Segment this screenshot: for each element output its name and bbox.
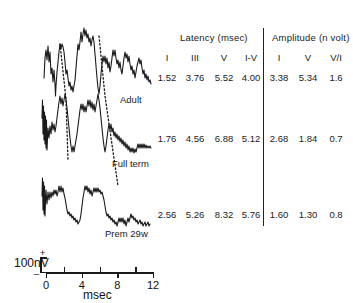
table-column-header-amplitude-V: V xyxy=(299,52,317,63)
cell-prem-29w-latency-I-V: 5.76 xyxy=(239,209,263,220)
x-axis-tick-0 xyxy=(46,272,47,278)
x-axis-minor-tick-6 xyxy=(100,267,101,272)
table-column-header-latency-III: III xyxy=(186,52,204,63)
cell-adult-latency-V: 5.52 xyxy=(212,72,236,83)
trace-label-full-term: Full term xyxy=(112,158,149,169)
cell-full-term-amplitude-V: 1.84 xyxy=(296,133,320,144)
cell-full-term-amplitude-V-over-I: 0.7 xyxy=(325,133,347,144)
cell-adult-latency-I: 1.52 xyxy=(155,72,179,83)
x-axis-tick-4 xyxy=(82,272,83,278)
x-axis-tick-12 xyxy=(153,272,154,278)
cell-prem-29w-amplitude-V-over-I: 0.8 xyxy=(325,209,347,220)
cell-full-term-latency-I: 1.76 xyxy=(155,133,179,144)
scale-bar-negative-sign: _ xyxy=(34,266,39,275)
cell-prem-29w-latency-V: 8.32 xyxy=(212,209,236,220)
cell-adult-amplitude-I: 3.38 xyxy=(267,72,291,83)
cell-full-term-latency-III: 4.56 xyxy=(183,133,207,144)
waveform-plot-area xyxy=(0,0,180,260)
cell-adult-amplitude-V-over-I: 1.6 xyxy=(325,72,347,83)
cell-full-term-latency-I-V: 5.12 xyxy=(239,133,263,144)
table-column-header-latency-V: V xyxy=(215,52,233,63)
cell-prem-29w-amplitude-V: 1.30 xyxy=(296,209,320,220)
cell-prem-29w-latency-III: 5.26 xyxy=(183,209,207,220)
x-axis-minor-tick-10 xyxy=(135,267,136,272)
cell-full-term-amplitude-I: 2.68 xyxy=(267,133,291,144)
cell-adult-latency-III: 3.76 xyxy=(183,72,207,83)
table-column-header-latency-I: I xyxy=(158,52,176,63)
table-column-header-amplitude-V-over-I: V/I xyxy=(325,52,347,63)
trace-label-prem-29w: Prem 29w xyxy=(105,228,148,239)
cell-prem-29w-amplitude-I: 1.60 xyxy=(267,209,291,220)
table-vertical-divider xyxy=(263,28,264,226)
x-axis-title: msec xyxy=(83,288,112,302)
cell-full-term-latency-V: 6.88 xyxy=(212,133,236,144)
cell-adult-latency-I-V: 4.00 xyxy=(239,72,263,83)
cell-adult-amplitude-V: 5.34 xyxy=(296,72,320,83)
waveform-trace-adult xyxy=(44,28,151,96)
waveform-trace-prem-29w xyxy=(42,178,150,226)
x-axis-line xyxy=(46,272,153,274)
trace-label-adult: Adult xyxy=(120,94,142,105)
cell-prem-29w-latency-I: 2.56 xyxy=(155,209,179,220)
x-axis-tick-8 xyxy=(117,272,118,278)
table-group-header-amplitude: Amplitude (n volt) xyxy=(272,32,350,43)
table-column-header-amplitude-I: I xyxy=(270,52,288,63)
table-group-header-latency: Latency (msec) xyxy=(180,32,248,43)
x-axis-label-0: 0 xyxy=(36,279,56,291)
x-axis-label-12: 12 xyxy=(143,279,163,291)
table-column-header-latency-I-V: I-V xyxy=(240,52,262,63)
abr-figure: Adult Full term Prem 29w Latency (msec) … xyxy=(0,0,353,303)
x-axis-minor-tick-2 xyxy=(64,267,65,272)
